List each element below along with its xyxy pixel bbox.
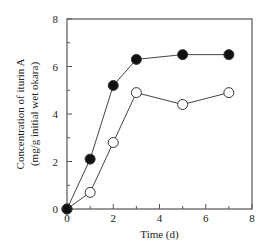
y-axis-label-line2: (mg/g initial wet okara) xyxy=(28,62,41,166)
open-circles-point xyxy=(178,100,188,110)
chart: 0246802468 Time (d) Concentration of itu… xyxy=(0,0,269,249)
x-tick-label: 8 xyxy=(249,212,255,224)
open-circles-point xyxy=(131,88,141,98)
y-tick-label: 6 xyxy=(53,61,59,73)
y-axis-label-line1: Concentration of iturin A xyxy=(14,59,26,170)
filled-circles-point xyxy=(108,81,118,91)
filled-circles-point xyxy=(131,54,141,64)
open-circles-point xyxy=(224,88,234,98)
x-axis-label: Time (d) xyxy=(140,228,179,241)
x-tick-label: 2 xyxy=(111,212,117,224)
series-lines xyxy=(67,55,229,209)
tick-labels: 0246802468 xyxy=(53,13,256,224)
filled-circles-point xyxy=(178,50,188,60)
filled-circles-point xyxy=(85,154,95,164)
filled-circles-line xyxy=(67,55,229,209)
plot-frame xyxy=(67,19,252,209)
y-tick-label: 2 xyxy=(53,156,59,168)
y-tick-label: 4 xyxy=(53,108,59,120)
open-circles-point xyxy=(108,138,118,148)
series-markers xyxy=(62,50,234,214)
filled-circles-point xyxy=(224,50,234,60)
open-circles-point xyxy=(85,187,95,197)
filled-circles-point xyxy=(62,204,72,214)
axis-ticks xyxy=(67,19,252,209)
x-tick-label: 6 xyxy=(203,212,209,224)
y-tick-label: 0 xyxy=(53,203,59,215)
x-tick-label: 4 xyxy=(157,212,163,224)
y-tick-label: 8 xyxy=(53,13,59,25)
